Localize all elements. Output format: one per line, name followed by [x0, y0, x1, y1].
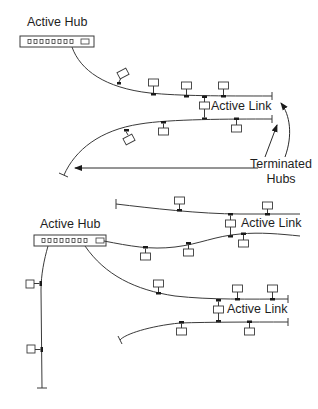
terminated-arrow-mid: [265, 125, 277, 157]
bottom-link2-lower-cable: [120, 322, 288, 340]
node: [123, 129, 135, 145]
node: [233, 285, 243, 301]
bottom-active-link-label-1: Active Link: [241, 216, 301, 230]
node: [27, 345, 43, 353]
top-upper-cable: [72, 47, 272, 96]
node: [159, 121, 169, 135]
active-link-node: [214, 299, 224, 323]
node: [117, 68, 129, 84]
bottom-link1-lower-cable: [104, 233, 300, 248]
bottom-active-hub: [34, 235, 106, 246]
network-diagram: [0, 0, 318, 409]
node: [26, 280, 42, 288]
bottom-hub-label: Active Hub: [40, 217, 100, 231]
node: [245, 321, 255, 336]
terminated-hubs-label-line1: Terminated: [241, 157, 318, 171]
bottom-active-link-label-2: Active Link: [227, 302, 287, 316]
top-active-link-label: Active Link: [211, 99, 271, 113]
top-active-hub: [20, 36, 94, 47]
node: [219, 82, 229, 98]
node: [175, 197, 185, 212]
active-link-node: [226, 213, 236, 238]
top-hub-label: Active Hub: [27, 15, 87, 29]
terminated-arrow-right: [281, 103, 290, 157]
active-link-node: [200, 96, 210, 121]
node: [239, 233, 249, 248]
node: [263, 202, 273, 216]
terminated-hubs-label-line2: Hubs: [241, 172, 318, 186]
node: [268, 285, 278, 301]
bottom-vertical-cable: [41, 246, 48, 388]
